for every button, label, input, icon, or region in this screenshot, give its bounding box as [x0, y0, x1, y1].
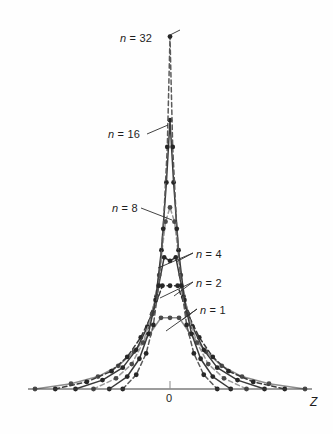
x-axis-label: Z — [310, 396, 317, 408]
annotation-label-n2: n = 2 — [196, 278, 222, 289]
annotation-value-n16: = 16 — [118, 128, 141, 140]
data-point-marker — [184, 323, 189, 328]
data-point-marker — [134, 372, 139, 377]
data-point-marker — [251, 379, 256, 384]
data-point-marker — [201, 372, 206, 377]
data-point-marker — [171, 180, 176, 185]
data-point-marker — [159, 315, 164, 320]
leader-n8 — [141, 208, 172, 220]
data-point-marker — [151, 323, 156, 328]
data-point-marker — [156, 283, 161, 288]
x-axis-origin-label: 0 — [166, 393, 172, 404]
leader-n16 — [147, 125, 168, 134]
data-point-marker — [114, 376, 119, 381]
leader-n32 — [168, 30, 180, 36]
annotation-label-n16: n = 16 — [108, 129, 140, 140]
annotation-n-symbol-n8: n — [112, 202, 118, 214]
data-point-marker — [191, 351, 196, 356]
series-line-n8 — [94, 207, 247, 389]
annotation-value-n4: = 4 — [206, 248, 222, 260]
annotation-label-n32: n = 32 — [120, 33, 152, 44]
series-line-n2 — [55, 286, 285, 389]
annotation-n-symbol-n16: n — [108, 128, 114, 140]
annotation-label-n4: n = 4 — [196, 249, 222, 260]
data-point-marker — [174, 226, 179, 231]
series-layer — [33, 34, 308, 391]
figure-container: 0 Z n = 32 n = 16 n = 8 n = 4 n = 2 n = … — [0, 0, 333, 434]
data-point-marker — [100, 378, 105, 383]
annotation-value-n32: = 32 — [130, 32, 153, 44]
sampling-distribution-chart — [0, 0, 333, 434]
data-point-marker — [84, 379, 89, 384]
data-point-marker — [222, 376, 227, 381]
series-line-n4 — [76, 257, 265, 389]
annotation-value-n8: = 8 — [122, 202, 138, 214]
data-point-marker — [137, 356, 142, 361]
data-point-marker — [177, 315, 182, 320]
annotation-label-n1: n = 1 — [200, 305, 226, 316]
data-point-marker — [168, 205, 173, 210]
annotation-value-n2: = 2 — [206, 277, 222, 289]
data-point-marker — [206, 362, 211, 367]
annotation-label-n8: n = 8 — [112, 203, 138, 214]
data-point-marker — [162, 255, 167, 260]
annotation-n-symbol-n4: n — [196, 248, 202, 260]
data-point-marker — [215, 365, 220, 370]
data-point-marker — [161, 226, 166, 231]
annotation-n-symbol-n32: n — [120, 32, 126, 44]
data-point-marker — [144, 351, 149, 356]
data-point-marker — [210, 374, 215, 379]
data-point-marker — [129, 362, 134, 367]
data-point-marker — [125, 374, 130, 379]
annotation-n-symbol-n1: n — [200, 304, 206, 316]
data-point-marker — [165, 145, 170, 150]
data-point-marker — [170, 145, 175, 150]
data-point-marker — [120, 365, 125, 370]
data-point-marker — [235, 378, 240, 383]
data-point-marker — [168, 283, 173, 288]
annotation-value-n1: = 1 — [210, 304, 226, 316]
annotation-n-symbol-n2: n — [196, 277, 202, 289]
data-point-marker — [198, 356, 203, 361]
data-point-marker — [173, 255, 178, 260]
data-point-marker — [168, 315, 173, 320]
